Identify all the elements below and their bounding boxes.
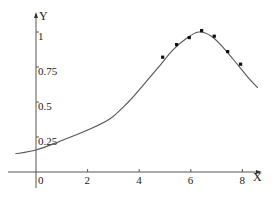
y-tick-label: 0.75	[38, 65, 58, 77]
y-axis-arrow-icon	[34, 12, 38, 18]
x-tick-label: 2	[85, 174, 91, 186]
x-axis-label: X	[253, 170, 262, 184]
x-tick-label: 0	[38, 174, 44, 186]
data-points	[161, 29, 242, 66]
y-axis-label: Y	[39, 9, 48, 23]
data-point	[213, 35, 216, 38]
chart: 02468 0.250.50.751 Y X	[0, 0, 274, 199]
x-tick-label: 4	[136, 174, 142, 186]
data-point	[226, 50, 229, 53]
y-tick-label: 0.5	[38, 100, 52, 112]
x-axis	[8, 170, 262, 174]
data-point	[188, 36, 191, 39]
data-point	[161, 56, 164, 59]
x-tick-label: 8	[239, 174, 245, 186]
data-point	[175, 43, 178, 46]
y-ticks: 0.250.50.751	[36, 30, 58, 147]
data-point	[239, 63, 242, 66]
y-tick-label: 0.25	[38, 135, 58, 147]
x-tick-label: 6	[188, 174, 194, 186]
y-tick-label: 1	[38, 30, 44, 42]
data-point	[200, 29, 203, 32]
